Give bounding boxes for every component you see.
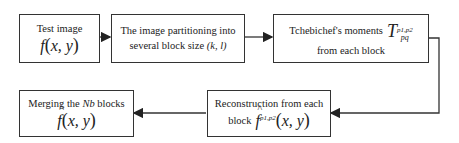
test-image-formula: f(x, y) [40, 36, 79, 56]
test-image-box: Test image f(x, y) [19, 14, 100, 63]
reconstruction-box: Reconstruction from each block fp1,p2(x,… [207, 90, 331, 137]
merging-label: Merging the Nb blocks [28, 97, 124, 111]
reconstruction-formula: fp1,p2(x, y) [255, 111, 309, 131]
partitioning-box: The image partitioning into several bloc… [111, 14, 245, 63]
partitioning-line1: The image partitioning into [120, 24, 235, 38]
tchebichef-line2: from each block [317, 44, 385, 58]
test-image-label: Test image [37, 22, 83, 36]
merging-formula: f(x, y) [57, 111, 96, 131]
tchebichef-symbol: Tp1,p2pq [387, 19, 413, 43]
reconstruction-line2: block fp1,p2(x, y) [228, 111, 310, 131]
merging-box: Merging the Nb blocks f(x, y) [19, 90, 134, 137]
tchebichef-box: Tchebichef's moments Tp1,p2pq from each … [273, 14, 429, 63]
reconstruction-line1: Reconstruction from each [215, 97, 323, 111]
partitioning-line2: several block size (k, l) [129, 39, 226, 53]
tchebichef-line1: Tchebichef's moments Tp1,p2pq [289, 19, 412, 43]
